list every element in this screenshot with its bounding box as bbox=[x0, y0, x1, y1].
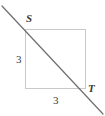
vertex-label-t: T bbox=[88, 83, 95, 94]
side-length-label-left: 3 bbox=[16, 54, 22, 65]
geometry-figure: S T 3 3 bbox=[0, 0, 105, 116]
side-length-label-bottom: 3 bbox=[53, 95, 59, 106]
square-shape bbox=[26, 30, 86, 89]
vertex-label-s: S bbox=[26, 13, 32, 24]
